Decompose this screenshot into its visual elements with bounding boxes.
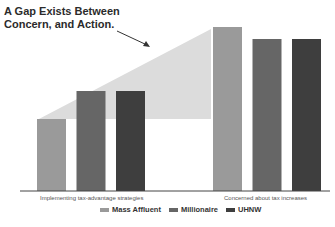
bar-mass-affluent-1 <box>213 27 242 191</box>
legend-label: Millionaire <box>181 205 218 214</box>
chart-plot <box>0 0 335 227</box>
bar-mass-affluent-0 <box>37 119 66 191</box>
legend-swatch <box>226 208 235 212</box>
legend-label: UHNW <box>238 205 261 214</box>
legend-swatch <box>100 208 109 212</box>
legend-item-millionaire: Millionaire <box>169 205 218 214</box>
legend-swatch <box>169 208 178 212</box>
legend: Mass Affluent Millionaire UHNW <box>100 205 261 214</box>
category-label-0: Implementing tax-advantage strategies <box>40 195 143 201</box>
bar-uhnw-1 <box>292 39 321 191</box>
legend-label: Mass Affluent <box>112 205 161 214</box>
legend-item-uhnw: UHNW <box>226 205 261 214</box>
arrow-icon <box>117 31 150 47</box>
bar-millionaire-1 <box>253 39 282 191</box>
bar-uhnw-0 <box>116 91 145 191</box>
category-label-1: Concerned about tax increases <box>224 195 307 201</box>
bar-millionaire-0 <box>77 91 106 191</box>
legend-item-mass-affluent: Mass Affluent <box>100 205 161 214</box>
